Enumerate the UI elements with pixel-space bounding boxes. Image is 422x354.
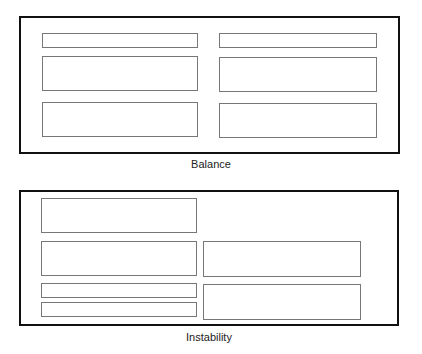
balance-box-right-2 [219, 57, 377, 92]
balance-box-right-1 [219, 33, 377, 48]
balance-box-left-3 [42, 102, 198, 137]
balance-box-left-2 [42, 56, 198, 91]
instability-box-left-3 [41, 283, 197, 298]
instability-box-right-1 [203, 241, 361, 277]
instability-box-left-4 [41, 302, 197, 317]
balance-box-right-3 [219, 103, 377, 138]
balance-caption: Balance [151, 158, 271, 170]
instability-caption: Instability [149, 331, 269, 343]
instability-box-left-1 [41, 198, 197, 233]
instability-box-right-2 [203, 284, 361, 320]
instability-box-left-2 [41, 241, 197, 276]
balance-box-left-1 [42, 33, 198, 48]
